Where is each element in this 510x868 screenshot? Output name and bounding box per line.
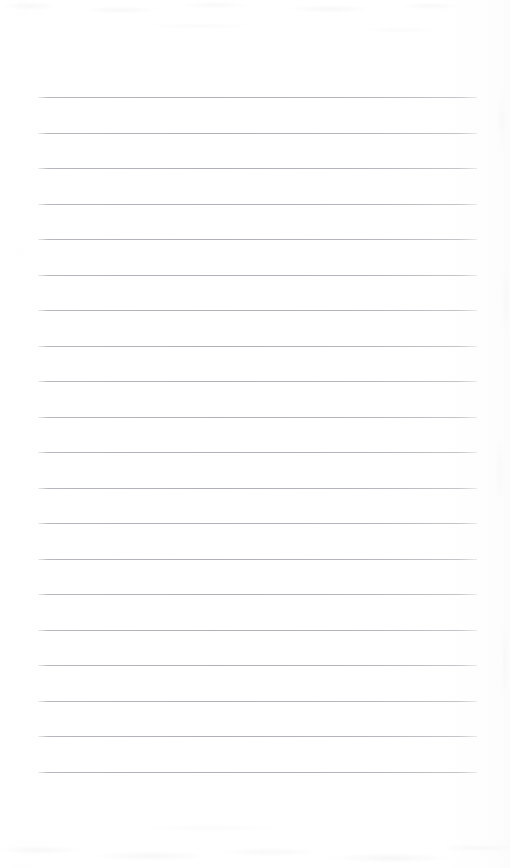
rule-line xyxy=(38,630,477,631)
rule-line xyxy=(38,772,477,773)
rule-line xyxy=(38,204,477,205)
rule-line xyxy=(38,97,477,98)
rule-line xyxy=(38,133,477,134)
rule-line xyxy=(38,701,477,702)
rule-line xyxy=(38,417,477,418)
rule-line xyxy=(38,452,477,453)
notepad-page xyxy=(0,0,510,868)
rule-line xyxy=(38,736,477,737)
rule-line xyxy=(38,559,477,560)
rule-line xyxy=(38,381,477,382)
rule-line xyxy=(38,275,477,276)
rule-line xyxy=(38,310,477,311)
rule-line xyxy=(38,488,477,489)
rule-line xyxy=(38,594,477,595)
rule-line xyxy=(38,168,477,169)
rule-line xyxy=(38,239,477,240)
rule-line xyxy=(38,523,477,524)
ruled-lines-layer xyxy=(0,0,510,868)
rule-line xyxy=(38,665,477,666)
rule-line xyxy=(38,346,477,347)
